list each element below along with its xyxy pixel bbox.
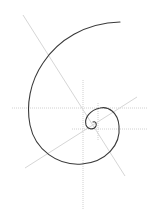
construction-guides <box>12 15 148 210</box>
spiral-diagram <box>0 0 156 221</box>
diagram-canvas <box>0 0 156 221</box>
golden-spiral <box>29 22 120 164</box>
